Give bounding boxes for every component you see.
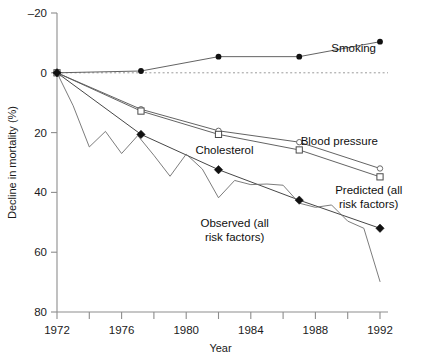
x-tick-label: 1980 [173, 324, 199, 336]
annotation-label: Cholesterol [195, 144, 253, 156]
marker-open-circle [377, 166, 382, 171]
x-tick-label: 1992 [367, 324, 393, 336]
annotation-label-multiline: Predicted (allrisk factors) [335, 184, 402, 210]
y-tick-label: 80 [34, 306, 47, 318]
y-tick-label: 60 [34, 246, 47, 258]
x-tick-label: 1976 [109, 324, 135, 336]
x-tick-label: 1988 [303, 324, 329, 336]
y-axis-title: Decline in mortality (%) [6, 106, 18, 219]
x-tick-label: 1984 [238, 324, 264, 336]
chart-canvas: –20020406080197219761980198419881992 Smo… [0, 0, 422, 357]
x-axis-title: Year [209, 342, 232, 354]
marker-filled-circle [138, 68, 144, 74]
marker-filled-diamond [295, 196, 303, 204]
y-tick-label: 0 [41, 67, 47, 79]
y-tick-label: –20 [28, 7, 47, 19]
annotation-line: Predicted (all [335, 184, 402, 196]
marker-filled-diamond [214, 165, 222, 173]
marker-open-square [215, 131, 221, 137]
annotation-line: risk factors) [205, 231, 265, 243]
annotation-line: Observed (all [200, 217, 268, 229]
tick-label-group: –20020406080197219761980198419881992 [28, 7, 393, 336]
x-tick-label: 1972 [44, 324, 70, 336]
y-tick-label: 40 [34, 186, 47, 198]
tick-group [51, 13, 380, 319]
annotation-line: risk factors) [339, 198, 399, 210]
annotation-label-multiline: Observed (allrisk factors) [200, 217, 268, 243]
annotation-label: Blood pressure [301, 135, 378, 147]
marker-filled-circle [377, 39, 383, 45]
marker-filled-diamond [376, 224, 384, 232]
annotation-label: Smoking [331, 42, 376, 54]
marker-open-square [296, 147, 302, 153]
series-group [57, 42, 380, 282]
marker-open-square [138, 108, 144, 114]
y-tick-label: 20 [34, 127, 47, 139]
series-line-observed-all-risk-factors [57, 73, 380, 282]
mortality-decline-chart: –20020406080197219761980198419881992 Smo… [0, 0, 422, 357]
marker-filled-diamond [137, 130, 145, 138]
marker-open-square [377, 174, 383, 180]
marker-filled-circle [216, 54, 222, 60]
marker-filled-circle [296, 54, 302, 60]
series-line-blood-pressure [57, 73, 380, 177]
